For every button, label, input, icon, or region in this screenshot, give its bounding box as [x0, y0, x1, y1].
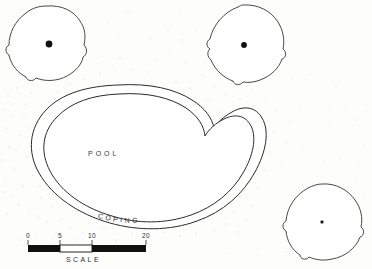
- tree-center-dot: [241, 42, 247, 48]
- tree-top-right[interactable]: [207, 5, 286, 85]
- scale-segment-5-10: [60, 245, 92, 252]
- plan-drawing-canvas: COPING: [0, 0, 372, 269]
- scale-tick-label-20: 20: [142, 232, 150, 239]
- scale-segment-10-20: [92, 245, 146, 252]
- pool-assembly[interactable]: COPING: [31, 85, 266, 229]
- scale-tick-label-5: 5: [58, 232, 62, 239]
- scale-caption-label: SCALE: [66, 256, 101, 263]
- tree-top-left[interactable]: [6, 6, 87, 81]
- scale-segment-0-5: [28, 245, 60, 252]
- tree-bottom-right[interactable]: [283, 184, 364, 260]
- scale-bar[interactable]: [28, 240, 146, 252]
- tree-center-dot: [46, 41, 53, 48]
- site-plan-sheet: COPING POOL SCALE 0 5 10 20: [0, 0, 372, 269]
- scale-tick-label-10: 10: [88, 232, 96, 239]
- tree-center-dot: [321, 221, 324, 224]
- pool-label: POOL: [88, 150, 119, 157]
- scale-tick-label-0: 0: [26, 232, 30, 239]
